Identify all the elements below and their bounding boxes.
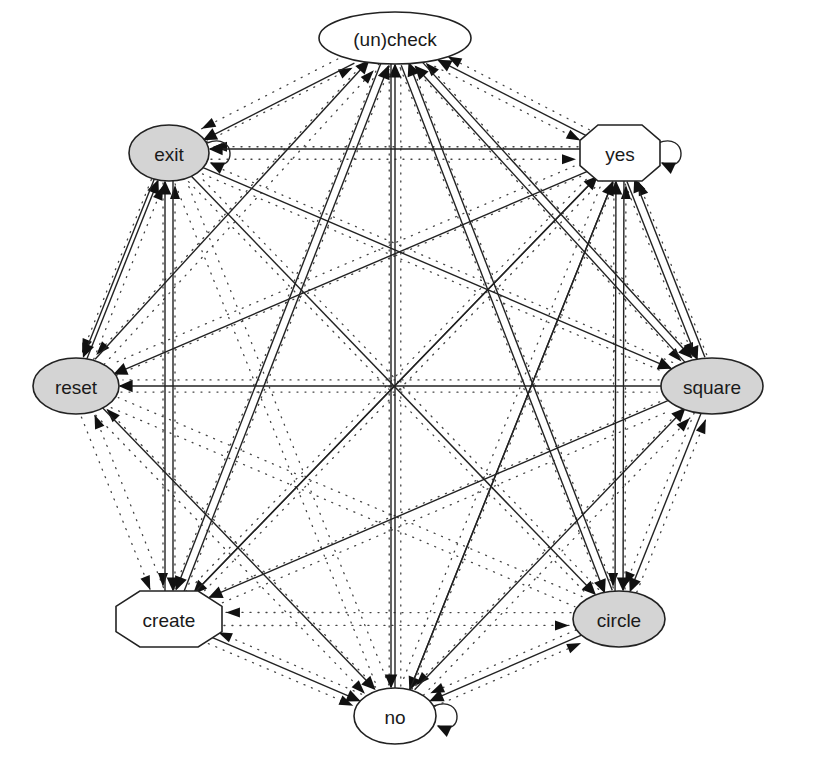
dotted-edge-reset-to-yes: [116, 175, 584, 376]
arrowhead-icon: [140, 575, 150, 590]
arrowhead-icon: [562, 154, 576, 164]
dotted-edge-create-to-square: [215, 410, 670, 605]
dotted-edge-exit-to-circle: [189, 182, 589, 596]
dotted-edge-create-to-no: [208, 644, 353, 706]
node-circle[interactable]: circle: [573, 591, 665, 647]
node-uncheck[interactable]: (un)check: [319, 12, 471, 64]
dotted-edge-circle-to-yes: [625, 185, 626, 589]
dotted-edge-uncheck-to-square: [414, 68, 681, 361]
node-label: exit: [154, 144, 184, 165]
arrowhead-icon: [202, 118, 217, 129]
edge-no-to-no: [434, 704, 457, 728]
arrowhead-icon: [555, 620, 569, 630]
node-label: yes: [605, 144, 635, 165]
node-label: square: [683, 377, 741, 398]
node-label: reset: [55, 377, 98, 398]
dotted-edge-reset-to-exit: [94, 186, 163, 359]
dotted-edge-square-to-yes: [638, 182, 706, 355]
edge-exit-to-reset: [83, 178, 154, 356]
node-label: no: [384, 707, 405, 728]
edge-exit-to-exit: [207, 141, 230, 165]
dotted-edge-create-to-reset: [95, 415, 164, 588]
edge-circle-to-yes: [615, 182, 616, 591]
node-no[interactable]: no: [354, 688, 436, 744]
dotted-edge-circle-to-reset: [118, 398, 582, 597]
node-label: circle: [597, 610, 641, 631]
arrowhead-icon: [158, 573, 168, 587]
arrowhead-icon: [95, 415, 105, 430]
edge-create-to-no: [210, 637, 359, 701]
node-square[interactable]: square: [661, 358, 763, 414]
arrowhead-icon: [566, 643, 581, 653]
arrowhead-icon: [426, 63, 439, 77]
dotted-edge-reset-to-no: [96, 415, 365, 693]
dotted-edge-circle-to-no: [430, 630, 576, 693]
edge-reset-to-exit: [87, 181, 158, 359]
dotted-edge-yes-to-circle: [613, 183, 614, 587]
dotted-edge-uncheck-to-circle: [400, 68, 601, 590]
graph-canvas: (un)checkyessquarecirclenocreateresetexi…: [0, 0, 816, 770]
nodes: (un)checkyessquarecirclenocreateresetexi…: [33, 12, 763, 744]
edge-square-to-yes: [635, 179, 705, 357]
arrowhead-icon: [352, 680, 365, 694]
edge-reset-to-uncheck: [95, 61, 368, 359]
edge-exit-to-circle: [191, 176, 595, 594]
edge-yes-to-circle: [623, 181, 624, 590]
dotted-edge-uncheck-to-exit: [202, 55, 345, 128]
edge-circle-to-no: [431, 635, 582, 700]
edge-square-to-create: [210, 400, 671, 598]
arrowhead-icon: [226, 607, 240, 617]
dotted-edge-yes-to-square: [625, 184, 693, 357]
node-create[interactable]: create: [116, 591, 222, 647]
arrowhead-icon: [430, 683, 445, 693]
edge-uncheck-to-square: [421, 60, 692, 357]
dotted-edge-yes-to-no: [402, 180, 603, 683]
dotted-edge-reset-to-create: [81, 417, 150, 590]
arrowhead-icon: [106, 409, 119, 423]
arrowhead-icon: [361, 70, 374, 84]
node-exit[interactable]: exit: [129, 125, 209, 181]
edge-uncheck-to-circle: [401, 65, 604, 592]
dotted-edge-exit-to-uncheck: [207, 68, 353, 142]
dotted-edge-square-to-exit: [209, 164, 672, 363]
dotted-edge-no-to-create: [218, 632, 361, 694]
node-yes[interactable]: yes: [580, 125, 660, 181]
edge-square-to-circle: [630, 413, 701, 590]
arrowhead-icon: [96, 341, 109, 355]
node-label: (un)check: [353, 29, 437, 50]
node-reset[interactable]: reset: [33, 358, 119, 414]
node-label: create: [143, 610, 196, 631]
edge-yes-to-yes: [658, 141, 681, 165]
dotted-edge-square-to-circle: [625, 413, 694, 586]
edge-create-to-uncheck: [183, 66, 388, 593]
dotted-edge-uncheck-to-yes: [435, 66, 581, 140]
edge-yes-to-uncheck: [439, 60, 588, 136]
arrowhead-icon: [338, 68, 353, 79]
dotted-edge-exit-to-reset: [82, 180, 151, 353]
dotted-edge-yes-to-uncheck: [448, 57, 590, 130]
edge-square-to-uncheck: [415, 66, 686, 363]
dotted-edge-circle-to-square: [637, 419, 706, 592]
dotted-edge-no-to-circle: [435, 643, 581, 706]
edge-yes-to-square: [627, 181, 697, 359]
arrowhead-icon: [668, 348, 681, 362]
